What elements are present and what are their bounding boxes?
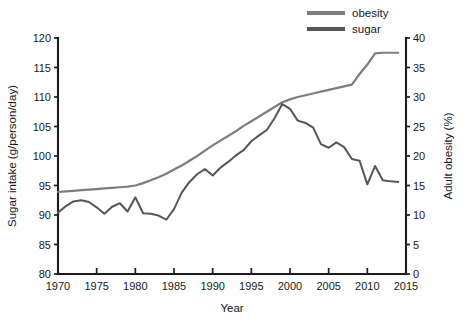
- y-axis-title: Sugar intake (g/person/day): [6, 85, 18, 227]
- y2-axis-tick-label: 35: [413, 62, 425, 74]
- x-axis-tick-label: 2010: [355, 280, 379, 292]
- y-axis-tick-label: 85: [39, 239, 51, 251]
- y2-axis-tick-label: 15: [413, 180, 425, 192]
- y2-axis-tick-label: 30: [413, 91, 425, 103]
- left-bottom-spine: [58, 38, 406, 274]
- x-axis-tick-label: 1985: [162, 280, 186, 292]
- x-axis-tick-label: 2000: [278, 280, 302, 292]
- x-axis-title: Year: [220, 302, 243, 314]
- y-axis-tick-label: 90: [39, 209, 51, 221]
- x-axis-tick-label: 1995: [239, 280, 263, 292]
- y2-axis-title: Adult obesity (%): [442, 112, 454, 199]
- y-axis-tick-label: 100: [33, 150, 51, 162]
- chart-series: [58, 53, 398, 220]
- x-axis-tick-label: 1970: [46, 280, 70, 292]
- y2-axis-tick-label: 20: [413, 150, 425, 162]
- x-axis-tick-label: 2005: [316, 280, 340, 292]
- series-line-obesity: [58, 53, 398, 192]
- y2-axis-tick-label: 10: [413, 209, 425, 221]
- x-axis-tick-label: 1990: [200, 280, 224, 292]
- y-axis-tick-label: 105: [33, 121, 51, 133]
- chart-legend: obesitysugar: [307, 7, 389, 35]
- y2-axis-tick-label: 25: [413, 121, 425, 133]
- y2-axis-tick-label: 0: [413, 268, 419, 280]
- x-axis-tick-label: 1980: [123, 280, 147, 292]
- x-axis-tick-label: 1975: [84, 280, 108, 292]
- y-axis-tick-label: 95: [39, 180, 51, 192]
- chart-axis-titles: YearSugar intake (g/person/day)Adult obe…: [6, 85, 454, 314]
- y-axis-tick-label: 115: [33, 62, 51, 74]
- y-axis-tick-label: 110: [33, 91, 51, 103]
- y2-axis-tick-label: 40: [413, 32, 425, 44]
- x-axis-tick-label: 2015: [394, 280, 418, 292]
- y-axis-tick-label: 120: [33, 32, 51, 44]
- chart-figure: 8085909510010511011512005101520253035401…: [0, 0, 466, 326]
- y-axis-tick-label: 80: [39, 268, 51, 280]
- legend-label-sugar: sugar: [352, 23, 381, 35]
- y2-axis-tick-label: 5: [413, 239, 419, 251]
- legend-label-obesity: obesity: [352, 7, 389, 19]
- dual-axis-line-chart: 8085909510010511011512005101520253035401…: [0, 0, 466, 326]
- series-line-sugar: [58, 104, 398, 220]
